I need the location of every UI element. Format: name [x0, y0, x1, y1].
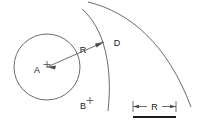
diagram-canvas: A B D R R — [0, 0, 202, 129]
outer-arc — [88, 2, 191, 107]
label-radius-dimension: R — [80, 45, 87, 55]
label-center-a: A — [34, 65, 40, 75]
inner-arc-d — [82, 9, 109, 111]
point-marker-b — [87, 97, 94, 104]
radius-arrowhead-outer — [95, 42, 104, 47]
label-point-b: B — [80, 101, 86, 111]
technical-diagram: A B D R R — [0, 0, 202, 129]
radius-dimension-line — [47, 42, 104, 67]
label-scale-bar: R — [151, 102, 158, 112]
label-arc-d: D — [114, 38, 121, 48]
